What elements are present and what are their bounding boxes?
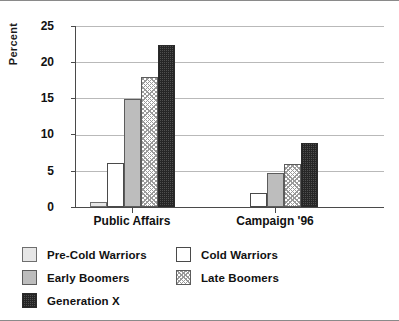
bar-public-affairs-generation-x	[158, 45, 175, 207]
plot-area: Percent 25 20 15 10 5 0	[0, 1, 399, 233]
bars-layer	[76, 26, 384, 207]
legend-item-late-boomers: Late Boomers	[176, 270, 279, 285]
legend-swatch-icon	[176, 247, 191, 262]
bar-campaign96-generation-x	[301, 143, 318, 207]
legend-label: Early Boomers	[47, 272, 129, 284]
legend-swatch-icon	[22, 293, 37, 308]
y-tick-label: 20	[28, 56, 54, 68]
y-tick-label: 5	[28, 165, 54, 177]
legend: Pre-Cold Warriors Early Boomers Generati…	[0, 241, 399, 311]
chart-figure: Percent 25 20 15 10 5 0	[0, 0, 399, 321]
legend-swatch-icon	[22, 270, 37, 285]
legend-label: Cold Warriors	[201, 249, 278, 261]
bar-public-affairs-early-boomers	[124, 99, 141, 207]
bar-public-affairs-late-boomers	[141, 77, 158, 207]
bar-public-affairs-pre-cold-warriors	[90, 202, 107, 207]
legend-swatch-icon	[176, 270, 191, 285]
legend-label: Pre-Cold Warriors	[47, 249, 147, 261]
legend-label: Generation X	[47, 295, 120, 307]
legend-item-pre-cold-warriors: Pre-Cold Warriors	[22, 247, 147, 262]
legend-item-cold-warriors: Cold Warriors	[176, 247, 278, 262]
bar-campaign96-cold-warriors	[250, 193, 267, 207]
legend-item-early-boomers: Early Boomers	[22, 270, 129, 285]
axes	[76, 26, 384, 207]
y-tick-label: 15	[28, 92, 54, 104]
bar-public-affairs-cold-warriors	[107, 163, 124, 207]
y-tick-label: 0	[28, 201, 54, 213]
x-tickmark-campaign96	[275, 207, 276, 213]
legend-item-generation-x: Generation X	[22, 293, 120, 308]
bar-campaign96-late-boomers	[284, 164, 301, 207]
legend-label: Late Boomers	[201, 272, 279, 284]
x-axis-label-campaign96: Campaign '96	[236, 214, 314, 228]
x-axis-line	[75, 207, 384, 208]
x-axis-label-public-affairs: Public Affairs	[94, 214, 171, 228]
legend-swatch-icon	[22, 247, 37, 262]
y-tick-labels: 25 20 15 10 5 0	[28, 1, 54, 233]
bar-campaign96-early-boomers	[267, 173, 284, 207]
y-axis-label: Percent	[7, 9, 19, 79]
y-tick-label: 10	[28, 128, 54, 140]
y-tick-label: 25	[28, 20, 54, 32]
x-tickmark-public-affairs	[132, 207, 133, 213]
